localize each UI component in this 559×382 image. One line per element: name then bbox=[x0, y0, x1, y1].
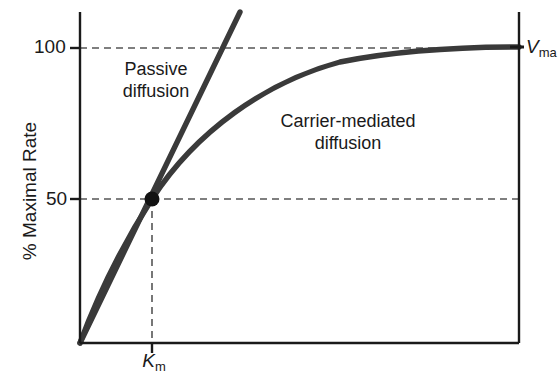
annotation-passive-line-1: Passive bbox=[124, 59, 187, 79]
km-half-max-point-marker bbox=[145, 192, 160, 207]
y-tick-label-100: 100 bbox=[34, 37, 66, 56]
annotation-carrier-line-1: Carrier-mediated bbox=[280, 111, 415, 131]
chart-figure: 100 50 % Maximal Rate Passive diffusion … bbox=[0, 0, 559, 382]
vmax-axis-label: Vma bbox=[526, 36, 557, 58]
annotation-passive-line-2: diffusion bbox=[123, 81, 190, 101]
vmax-subscript: ma bbox=[539, 45, 557, 60]
km-symbol: K bbox=[142, 350, 155, 371]
y-axis-title: % Maximal Rate bbox=[19, 66, 41, 316]
annotation-carrier-mediated-diffusion: Carrier-mediated diffusion bbox=[253, 110, 443, 154]
y-tick-label-50: 50 bbox=[46, 189, 67, 208]
annotation-carrier-line-2: diffusion bbox=[315, 133, 382, 153]
vmax-symbol: V bbox=[526, 36, 539, 57]
x-tick-label-km: Km bbox=[128, 350, 180, 372]
chart-canvas bbox=[0, 0, 559, 382]
km-subscript: m bbox=[155, 359, 166, 374]
annotation-passive-diffusion: Passive diffusion bbox=[96, 58, 216, 102]
